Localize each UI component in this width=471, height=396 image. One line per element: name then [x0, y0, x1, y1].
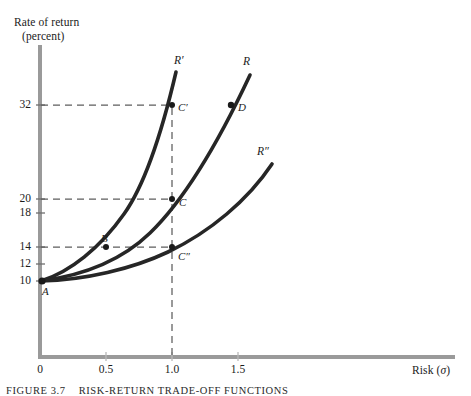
curve-label-R: R: [243, 55, 250, 68]
point-A: [38, 277, 45, 284]
curve-label-R-prime: R′: [174, 54, 184, 67]
curve-R: [41, 75, 250, 281]
point-B: [103, 244, 109, 250]
xtick-label-1-5: 1.5: [223, 363, 253, 376]
x-axis-title: Risk (σ): [412, 364, 450, 377]
y-axis-title-line2: (percent): [22, 30, 64, 43]
point-C: [169, 196, 175, 202]
ytick-label-20: 20: [5, 192, 31, 205]
curve-R-prime: [41, 72, 176, 281]
ytick-label-14: 14: [5, 240, 31, 253]
point-label-C-double-prime: C″: [178, 250, 190, 262]
point-D: [228, 102, 234, 108]
xtick-label-0-5: 0.5: [91, 363, 121, 376]
point-label-B: B: [101, 232, 108, 244]
xtick-label-0: 0: [25, 363, 55, 376]
curve-label-R-double-prime: R″: [257, 145, 269, 158]
figure-caption: FIGURE 3.7RISK-RETURN TRADE-OFF FUNCTION…: [6, 385, 288, 396]
point-C-prime: [169, 102, 175, 108]
point-label-A: A: [42, 285, 49, 297]
xtick-label-1-0: 1.0: [157, 363, 187, 376]
x-axis-title-close: ): [446, 364, 450, 376]
ytick-label-12: 12: [5, 257, 31, 270]
x-axis-title-text: Risk (: [412, 364, 440, 376]
figure-container: Rate of return (percent) Risk (σ) 32 20 …: [0, 0, 471, 396]
point-label-C-prime: C′: [178, 101, 188, 113]
point-label-C: C: [179, 196, 186, 208]
risk-return-chart: [0, 0, 471, 396]
figure-caption-number: FIGURE 3.7: [6, 385, 66, 396]
figure-caption-title: RISK-RETURN TRADE-OFF FUNCTIONS: [79, 385, 289, 396]
point-label-D: D: [238, 101, 246, 113]
ytick-label-10: 10: [5, 274, 31, 287]
ytick-label-18: 18: [5, 206, 31, 219]
ytick-label-32: 32: [5, 98, 31, 111]
y-axis-title-line1: Rate of return: [14, 16, 79, 29]
point-C-double-prime: [169, 244, 175, 250]
